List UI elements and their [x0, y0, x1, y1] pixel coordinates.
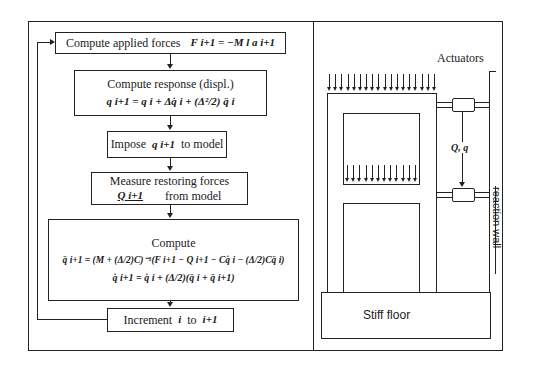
load-arrow-icon: [401, 74, 406, 91]
step-equation-vel: q̇ i+1 = q̇ i + (Δ/2)(q̈ i + q̈ i+1): [113, 272, 235, 285]
arrow-down-icon: [167, 64, 173, 69]
step-symbol: Q i+1: [118, 189, 144, 204]
load-arrow-icon: [383, 74, 388, 91]
step-label: Increment: [124, 313, 173, 328]
reaction-wall-label: reaction wall: [491, 187, 503, 248]
load-arrow-icon: [413, 74, 418, 91]
load-arrow-icon: [426, 74, 431, 91]
step-symbol-i: i: [178, 313, 181, 327]
step-label: Impose: [111, 137, 146, 152]
arrow-down-icon: [167, 125, 173, 130]
load-arrow-icon: [370, 74, 375, 91]
step-symbol-i-plus-1: i+1: [203, 313, 218, 327]
load-arrow-icon: [389, 74, 394, 91]
step-compute: Compute q̈ i+1 = (M + (Δ/2)C)⁻¹(F i+1 − …: [48, 219, 299, 301]
mid-load-arrows: [345, 165, 418, 182]
load-arrow-icon: [364, 74, 369, 91]
load-arrow-icon: [420, 74, 425, 91]
step-label-mid: to: [187, 313, 196, 328]
step-symbol: q i+1: [152, 138, 175, 152]
load-arrow-icon: [346, 74, 351, 91]
actuator-top: [436, 98, 490, 112]
arrow-down-icon: [459, 182, 465, 187]
loop-line-vertical: [37, 42, 38, 320]
actuator-bottom: [436, 188, 490, 202]
step-measure: Measure restoring forces Q i+1 from mode…: [91, 172, 248, 205]
actuators-label: Actuators: [437, 51, 484, 66]
load-arrow-icon: [394, 165, 399, 182]
load-arrow-icon: [382, 165, 387, 182]
step-label: Compute applied forces: [66, 36, 181, 51]
panel-divider: [313, 21, 314, 351]
load-arrow-icon: [407, 165, 412, 182]
step-increment: Increment i to i+1: [107, 308, 234, 332]
load-arrow-icon: [413, 165, 418, 182]
step-response: Compute response (displ.) q i+1 = q i + …: [74, 70, 267, 116]
actuator-rod-left: [436, 192, 453, 198]
actuator-body: [452, 188, 475, 202]
loop-line-bottom: [37, 319, 107, 320]
signal-label: Q, q: [450, 142, 469, 153]
load-arrow-icon: [395, 74, 400, 91]
load-arrow-icon: [351, 165, 356, 182]
step-label: Compute response (displ.): [107, 77, 233, 92]
actuator-rod-right: [474, 102, 490, 108]
load-arrow-icon: [376, 165, 381, 182]
step-label-post: from model: [165, 189, 221, 204]
step-label: Measure restoring forces: [110, 174, 229, 189]
arrow-down-icon: [167, 213, 173, 218]
load-arrow-icon: [407, 74, 412, 91]
step-label-post: to model: [181, 137, 223, 152]
load-arrow-icon: [358, 74, 363, 91]
load-arrow-icon: [388, 165, 393, 182]
load-arrow-icon: [370, 165, 375, 182]
step-equation: F i+1 = −M l a i+1: [191, 36, 276, 50]
step-equation: q i+1 = q i + Δq̇ i + (Δ²/2) q̈ i: [106, 95, 234, 109]
load-arrow-icon: [432, 74, 437, 91]
step-equation-accel: q̈ i+1 = (M + (Δ/2)C)⁻¹(F i+1 − Q i+1 − …: [63, 255, 285, 267]
step-label: Compute: [152, 236, 196, 251]
loop-line-top: [37, 42, 50, 43]
load-arrow-icon: [401, 165, 406, 182]
actuator-body: [452, 98, 475, 112]
load-arrow-icon: [352, 74, 357, 91]
step-applied-forces: Compute applied forces F i+1 = −M l a i+…: [55, 32, 286, 54]
arrow-down-icon: [167, 302, 173, 307]
load-arrow-icon: [364, 165, 369, 182]
reaction-wall-cap: [489, 71, 496, 72]
arrow-down-icon: [167, 166, 173, 171]
load-arrow-icon: [376, 74, 381, 91]
floor-label: Stiff floor: [363, 308, 410, 322]
load-arrow-icon: [357, 165, 362, 182]
load-arrow-icon: [345, 165, 350, 182]
load-arrow-icon: [339, 74, 344, 91]
step-impose: Impose q i+1 to model: [107, 131, 227, 158]
load-arrow-icon: [327, 74, 332, 91]
top-load-arrows: [327, 74, 437, 91]
actuator-rod-right: [474, 192, 490, 198]
load-arrow-icon: [333, 74, 338, 91]
actuator-rod-left: [436, 102, 453, 108]
lower-opening: [343, 203, 420, 293]
